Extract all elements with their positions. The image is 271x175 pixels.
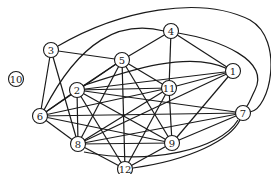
edge-4-11 — [169, 31, 171, 88]
node-label: 1 — [230, 66, 236, 77]
edge-11-9 — [169, 88, 172, 143]
node-6: 6 — [33, 109, 48, 124]
node-label: 9 — [169, 138, 175, 149]
node-9: 9 — [165, 136, 180, 151]
edge-4-1 — [171, 31, 233, 71]
node-label: 4 — [168, 26, 174, 37]
node-12: 12 — [118, 162, 133, 175]
node-label: 12 — [119, 164, 132, 174]
node-label: 6 — [37, 111, 43, 122]
node-label: 11 — [163, 83, 176, 94]
node-label: 7 — [240, 108, 246, 119]
edge-8-9 — [78, 143, 172, 144]
node-label: 3 — [48, 45, 54, 56]
edge-1-8 — [78, 71, 233, 144]
node-7: 7 — [236, 106, 251, 121]
curved-edge-2-1 — [82, 61, 228, 86]
node-2: 2 — [70, 83, 85, 98]
node-8: 8 — [71, 137, 86, 152]
node-10: 10 — [9, 72, 24, 87]
node-label: 5 — [119, 55, 125, 66]
edge-2-8 — [77, 90, 78, 144]
node-3: 3 — [44, 43, 59, 58]
node-11: 11 — [162, 81, 177, 96]
curved-edge-6-4 — [44, 28, 164, 110]
node-5: 5 — [115, 53, 130, 68]
graph-diagram: 123456789101112 — [0, 0, 271, 174]
curved-edge-4-7 — [178, 33, 258, 107]
curved-edge-12-7 — [133, 120, 240, 168]
node-4: 4 — [164, 24, 179, 39]
node-1: 1 — [226, 64, 241, 79]
node-label: 8 — [75, 139, 81, 150]
node-label: 2 — [74, 85, 80, 96]
graph-nodes: 123456789101112 — [9, 24, 251, 175]
node-label: 10 — [10, 74, 23, 85]
edge-4-5 — [122, 31, 171, 60]
